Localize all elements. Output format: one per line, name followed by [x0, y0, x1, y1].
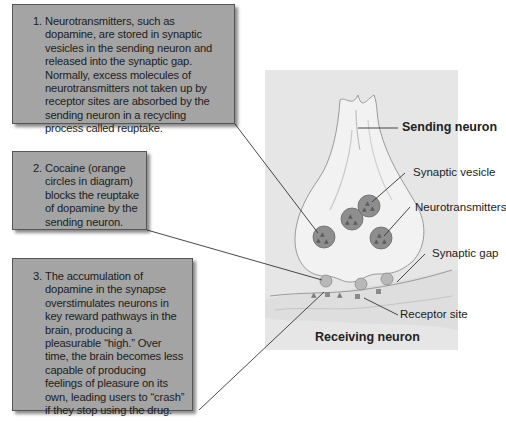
svg-text:▲: ▲ [382, 237, 387, 244]
label-synaptic-gap: Synaptic gap [432, 247, 499, 259]
svg-text:▲: ▲ [345, 218, 350, 225]
label-neurotransmitters: Neurotransmitters [415, 201, 506, 213]
svg-text:▲: ▲ [320, 230, 325, 237]
callout-2: 2. Cocaine (orange circles in diagram) b… [12, 151, 147, 230]
svg-text:▲: ▲ [362, 205, 367, 212]
callout-2-text: Cocaine (orange circles in diagram) bloc… [45, 162, 140, 229]
label-receptor-site: Receptor site [400, 308, 468, 320]
svg-text:▲: ▲ [324, 237, 329, 244]
svg-text:▲: ▲ [370, 204, 375, 211]
svg-text:▲: ▲ [374, 237, 379, 244]
svg-text:▲: ▲ [353, 218, 358, 225]
svg-text:▲: ▲ [316, 236, 321, 243]
label-sending-neuron: Sending neuron [402, 120, 497, 134]
label-synaptic-vesicle: Synaptic vesicle [413, 166, 495, 178]
svg-text:▲: ▲ [337, 291, 343, 299]
callout-1-number: 1. [33, 15, 42, 28]
callout-2-number: 2. [33, 162, 42, 175]
callout-3-text: The accumulation of dopamine in the syna… [45, 270, 186, 417]
callout-3-number: 3. [33, 270, 42, 283]
label-receiving-neuron: Receiving neuron [315, 330, 420, 344]
callout-3: 3. The accumulation of dopamine in the s… [12, 258, 193, 411]
svg-text:▲: ▲ [311, 291, 317, 299]
callout-1: 1. Neurotransmitters, such as dopamine, … [12, 4, 235, 124]
callout-1-text: Neurotransmitters, such as dopamine, are… [45, 15, 226, 136]
